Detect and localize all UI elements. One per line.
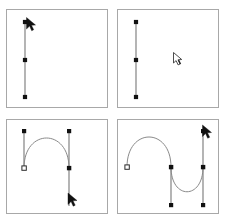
panel-1: [6, 9, 108, 108]
pen-arrow-cursor: [27, 18, 36, 31]
handle-end-left-top: [22, 129, 26, 133]
panel-2: [117, 9, 219, 108]
anchor-middle: [23, 58, 27, 62]
anchor-start: [125, 165, 129, 169]
anchor-right: [67, 166, 71, 170]
anchor-bottom: [134, 95, 138, 99]
handle-end-right-top: [67, 129, 71, 133]
anchor-end: [201, 165, 205, 169]
panel-4: [117, 119, 219, 214]
anchor-middle: [169, 165, 173, 169]
s-curve-first-arc: [127, 137, 171, 167]
anchor-left: [22, 166, 26, 170]
s-curve-second-arc: [171, 167, 203, 192]
caption-strip: [0, 0, 225, 8]
figure-container: [0, 0, 225, 219]
anchor-middle: [134, 58, 138, 62]
hand-pointer-cursor: [174, 53, 182, 65]
handle-end-right-bottom: [201, 203, 205, 207]
anchor-bottom: [23, 95, 27, 99]
pen-arrow-cursor: [203, 125, 212, 138]
anchor-top: [134, 20, 138, 24]
panel-3: [6, 119, 108, 214]
arch-curve: [24, 138, 69, 168]
handle-end-middle-bottom: [169, 203, 173, 207]
